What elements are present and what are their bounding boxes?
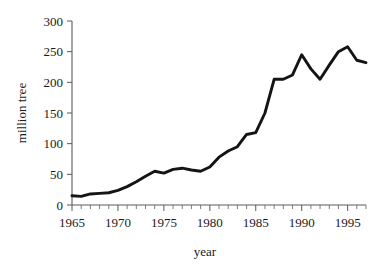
y-tick-label: 300	[44, 14, 64, 29]
y-axis-tick-labels: 050100150200250300	[44, 14, 64, 213]
data-series-group	[72, 47, 366, 197]
x-tick-label: 1970	[105, 215, 131, 230]
chart-figure: 050100150200250300 million tree 19651970…	[0, 0, 380, 272]
y-tick-label: 200	[44, 75, 64, 90]
x-tick-label: 1980	[197, 215, 223, 230]
x-axis-minor-ticks	[72, 205, 366, 211]
data-series-line	[72, 47, 366, 197]
y-tick-label: 0	[57, 198, 64, 213]
x-tick-label: 1975	[151, 215, 177, 230]
y-tick-label: 50	[50, 167, 63, 182]
line-chart: 050100150200250300 million tree 19651970…	[0, 0, 380, 272]
x-axis-title: year	[194, 244, 217, 259]
y-axis-group: 050100150200250300 million tree	[14, 14, 72, 213]
x-tick-label: 1985	[243, 215, 269, 230]
y-axis-ticks	[67, 21, 72, 205]
x-tick-label: 1965	[59, 215, 85, 230]
x-tick-label: 1995	[335, 215, 361, 230]
y-tick-label: 100	[44, 136, 64, 151]
y-tick-label: 250	[44, 44, 64, 59]
y-axis-title: million tree	[14, 83, 29, 144]
x-axis-group: 1965197019751980198519901995 year	[59, 205, 366, 259]
x-tick-label: 1990	[289, 215, 315, 230]
y-tick-label: 150	[44, 106, 64, 121]
x-axis-tick-labels: 1965197019751980198519901995	[59, 215, 361, 230]
